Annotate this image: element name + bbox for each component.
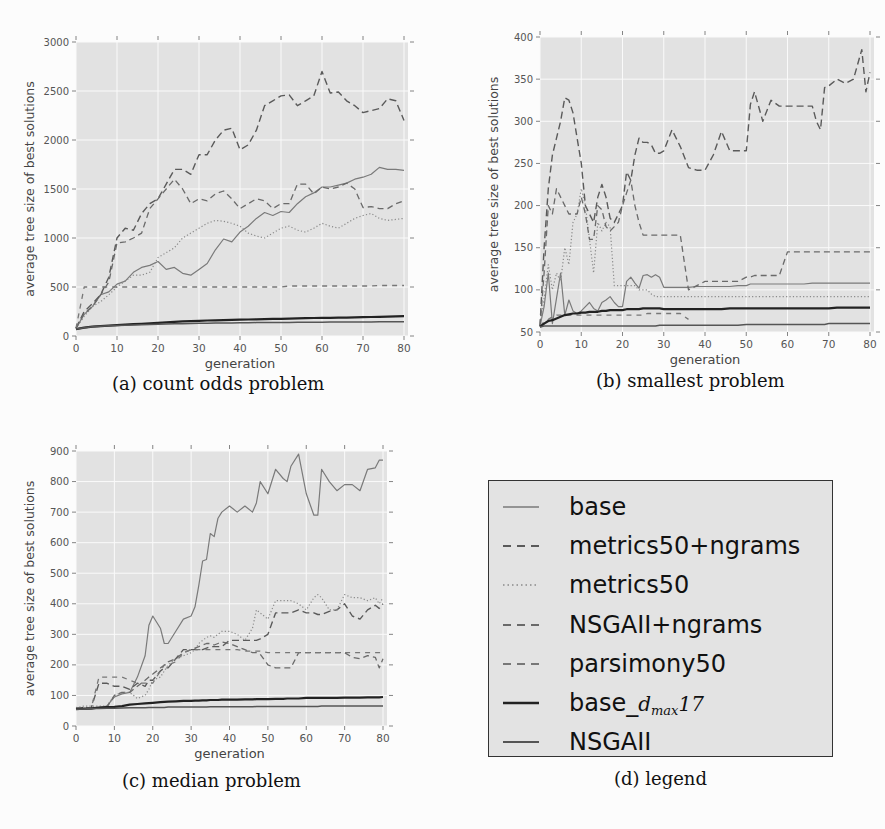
svg-text:10: 10 xyxy=(108,732,121,744)
legend-line-dash-icon xyxy=(501,605,541,645)
legend-item-metrics50-ngrams: metrics50+ngrams xyxy=(489,526,832,566)
svg-text:200: 200 xyxy=(50,659,69,670)
svg-text:average tree size of best solu: average tree size of best solutions xyxy=(22,481,37,697)
legend-label: NSGAII+ngrams xyxy=(569,607,762,643)
legend-label: NSGAII xyxy=(569,724,651,760)
legend-line-thick-solid-icon xyxy=(501,683,541,723)
legend-label: metrics50+ngrams xyxy=(569,528,800,564)
svg-text:40: 40 xyxy=(698,338,711,350)
svg-text:900: 900 xyxy=(50,446,69,457)
svg-text:700: 700 xyxy=(50,507,69,518)
svg-text:800: 800 xyxy=(50,476,69,487)
legend-box: base metrics50+ngrams metrics50 NSGAII+n… xyxy=(488,480,833,757)
legend-item-nsgaii: NSGAII xyxy=(489,722,832,762)
svg-text:100: 100 xyxy=(50,690,69,701)
svg-text:500: 500 xyxy=(50,568,69,579)
svg-text:generation: generation xyxy=(670,352,741,367)
chart-panel-c: 0100200300400500600700800900010203040506… xyxy=(0,0,440,829)
caption-c: (c) median problem xyxy=(122,770,301,791)
svg-text:600: 600 xyxy=(50,537,69,548)
legend-item-metrics50: metrics50 xyxy=(489,565,832,605)
svg-text:0: 0 xyxy=(73,732,80,744)
caption-b: (b) smallest problem xyxy=(596,370,785,391)
svg-text:generation: generation xyxy=(194,746,265,761)
svg-text:150: 150 xyxy=(514,242,533,253)
svg-text:0: 0 xyxy=(63,721,69,732)
legend-line-shortdash-icon xyxy=(501,644,541,684)
svg-text:250: 250 xyxy=(514,158,533,169)
svg-text:20: 20 xyxy=(146,732,159,744)
svg-text:400: 400 xyxy=(50,598,69,609)
svg-text:100: 100 xyxy=(514,284,533,295)
svg-text:0: 0 xyxy=(537,338,544,350)
svg-text:50: 50 xyxy=(520,327,533,338)
legend-line-longdash-icon xyxy=(501,526,541,566)
chart-c: 0100200300400500600700800900010203040506… xyxy=(0,0,440,770)
legend-item-base-dmax17: base_dmax17 xyxy=(489,683,832,723)
svg-text:20: 20 xyxy=(616,338,629,350)
svg-text:10: 10 xyxy=(575,338,588,350)
svg-text:70: 70 xyxy=(338,732,351,744)
svg-text:60: 60 xyxy=(781,338,794,350)
legend-label: parsimony50 xyxy=(569,646,726,682)
legend-line-solid-icon xyxy=(501,722,541,762)
legend-line-solid-icon xyxy=(501,487,541,527)
legend-line-dotted-icon xyxy=(501,565,541,605)
svg-text:400: 400 xyxy=(514,32,533,43)
svg-text:80: 80 xyxy=(376,732,389,744)
svg-text:300: 300 xyxy=(50,629,69,640)
legend-label: metrics50 xyxy=(569,567,689,603)
svg-text:60: 60 xyxy=(300,732,313,744)
svg-text:80: 80 xyxy=(863,338,876,350)
svg-text:300: 300 xyxy=(514,116,533,127)
svg-text:30: 30 xyxy=(184,732,197,744)
legend-item-nsgaii-ngrams: NSGAII+ngrams xyxy=(489,605,832,645)
svg-text:50: 50 xyxy=(740,338,753,350)
svg-text:70: 70 xyxy=(822,338,835,350)
svg-text:350: 350 xyxy=(514,74,533,85)
svg-text:30: 30 xyxy=(657,338,670,350)
svg-text:50: 50 xyxy=(261,732,274,744)
legend-label: base_dmax17 xyxy=(569,685,704,725)
caption-d: (d) legend xyxy=(614,768,707,789)
svg-text:average tree size of best solu: average tree size of best solutions xyxy=(486,77,501,293)
legend-item-base: base xyxy=(489,487,832,527)
svg-text:200: 200 xyxy=(514,200,533,211)
legend-item-parsimony50: parsimony50 xyxy=(489,644,832,684)
legend-label: base xyxy=(569,489,626,525)
svg-text:40: 40 xyxy=(223,732,236,744)
